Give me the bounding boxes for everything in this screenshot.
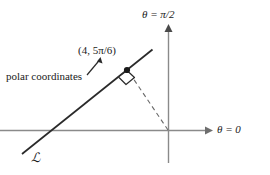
vertical-axis-arrowhead [165, 24, 173, 32]
polar-coordinates-annotation: polar coordinates [6, 71, 82, 82]
radius-dashed-segment [129, 72, 169, 131]
horizontal-axis [0, 127, 213, 135]
figure-canvas [0, 0, 270, 175]
vertical-axis-label: θ = π/2 [142, 9, 174, 20]
point-marker [124, 67, 130, 73]
horizontal-axis-label-text: θ = 0 [217, 123, 241, 135]
line-L [22, 50, 153, 155]
polar-coordinates-figure: θ = π/2 θ = 0 (4, 5π/6) polar coordinate… [0, 0, 270, 175]
horizontal-axis-label: θ = 0 [217, 124, 241, 135]
horizontal-axis-arrowhead [205, 127, 213, 135]
annotation-arrow-icon [87, 57, 103, 75]
vertical-axis-label-text: θ = π/2 [142, 8, 174, 20]
vertical-axis [165, 24, 173, 163]
line-L-label: ℒ [31, 151, 40, 164]
point-label: (4, 5π/6) [78, 45, 116, 56]
